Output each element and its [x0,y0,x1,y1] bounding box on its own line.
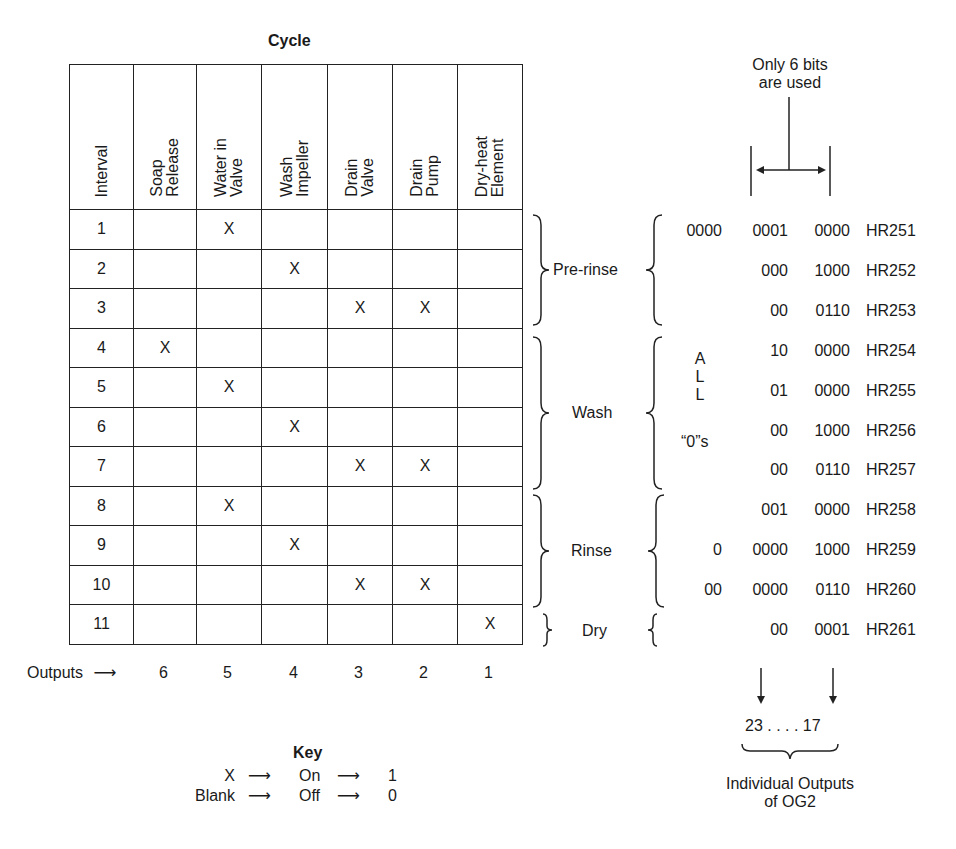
bit-group: 00 [770,302,788,320]
bit-group: 0000 [814,342,850,360]
bit-group: 0000 [814,501,850,519]
bit-group: 10 [770,342,788,360]
brace-rinse-left [533,495,549,607]
register-label: HR251 [866,222,916,240]
register-label: HR252 [866,262,916,280]
bit-group: 001 [761,501,788,519]
register-label: HR259 [866,541,916,559]
register-label: HR260 [866,581,916,599]
bit-group: 000 [761,262,788,280]
bit-note: Only 6 bits are used [740,56,840,92]
key-state: Off [299,787,320,805]
key-symbol: Blank [195,787,235,805]
arrow-right-icon: ⟶ [337,787,360,805]
bit-group: 00 [770,461,788,479]
bit-group: 0000 [814,222,850,240]
key-title: Key [293,744,322,762]
bit-group: 01 [770,382,788,400]
bit-group: 0110 [816,302,850,320]
brace-dry-right [648,614,657,646]
bit-group: 00 [704,581,722,599]
bit-group: 0000 [752,581,788,599]
key-bit: 0 [388,787,397,805]
all-zeros-label: “0”s [681,433,709,451]
phase-label-pre-rinse: Pre-rinse [553,261,618,279]
key-symbol: X [224,767,235,785]
brace-rinse-right [648,495,664,607]
phase-label-wash: Wash [572,404,612,422]
bit-group: 00 [770,621,788,639]
bit-group: 0000 [814,382,850,400]
brace-wash-left [533,337,549,489]
bit-group: 0110 [816,461,850,479]
brace-wash-right [646,337,662,489]
arrow-right-icon: ⟶ [248,767,271,785]
key-state: On [299,767,320,785]
brace-pre-rinse-left [533,215,549,325]
bit-group: 1000 [814,541,850,559]
key-bit: 1 [388,767,397,785]
register-label: HR257 [866,461,916,479]
register-label: HR258 [866,501,916,519]
brace-pre-rinse-right [646,215,662,325]
bit-group: 0110 [816,581,850,599]
register-label: HR261 [866,621,916,639]
bit-group: 0001 [814,621,850,639]
bit-group: 0000 [752,541,788,559]
register-label: HR256 [866,422,916,440]
register-label: HR254 [866,342,916,360]
bit-group: 0 [713,541,722,559]
phase-label-rinse: Rinse [571,542,612,560]
register-label: HR253 [866,302,916,320]
arrow-right-icon: ⟶ [337,767,360,785]
og2-note: Individual Outputs of OG2 [715,775,865,811]
bit-group: 0001 [752,222,788,240]
all-zeros-note: A L L [692,350,708,404]
phase-label-dry: Dry [582,622,607,640]
bit-group: 1000 [814,262,850,280]
brace-dry-left [543,614,552,646]
bit-group: 1000 [814,422,850,440]
arrow-right-icon: ⟶ [248,787,271,805]
brace-og2 [742,744,838,759]
og2-range: 23 . . . . 17 [745,717,821,735]
bit-group: 0000 [686,222,722,240]
register-label: HR255 [866,382,916,400]
bit-group: 00 [770,422,788,440]
